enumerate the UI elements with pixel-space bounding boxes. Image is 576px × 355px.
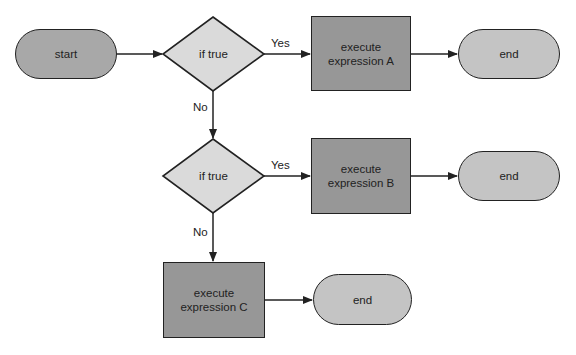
start-label: start bbox=[55, 47, 77, 61]
end1-node[interactable]: end bbox=[458, 29, 560, 79]
processB-node[interactable]: execute expression B bbox=[311, 138, 411, 214]
edge-label-yes-1: Yes bbox=[271, 37, 290, 49]
processB-line1: execute bbox=[328, 162, 394, 176]
start-node[interactable]: start bbox=[15, 29, 117, 79]
processC-line1: execute bbox=[180, 286, 247, 300]
processA-line2: expression A bbox=[328, 54, 394, 68]
decision1-node[interactable]: if true bbox=[163, 17, 264, 91]
edge-label-yes-2: Yes bbox=[271, 159, 290, 171]
processC-node[interactable]: execute expression C bbox=[163, 262, 265, 338]
edge-label-no-2: No bbox=[193, 226, 208, 238]
processC-line2: expression C bbox=[180, 300, 247, 314]
end3-label: end bbox=[353, 293, 372, 307]
end3-node[interactable]: end bbox=[313, 274, 412, 325]
processB-line2: expression B bbox=[328, 176, 394, 190]
processA-line1: execute bbox=[328, 40, 394, 54]
processA-node[interactable]: execute expression A bbox=[311, 16, 411, 91]
end2-node[interactable]: end bbox=[458, 151, 560, 201]
end2-label: end bbox=[499, 169, 518, 183]
edge-label-no-1: No bbox=[193, 101, 208, 113]
decision2-node[interactable]: if true bbox=[163, 139, 264, 213]
decision1-label: if true bbox=[199, 47, 228, 61]
end1-label: end bbox=[499, 47, 518, 61]
decision2-label: if true bbox=[199, 169, 228, 183]
